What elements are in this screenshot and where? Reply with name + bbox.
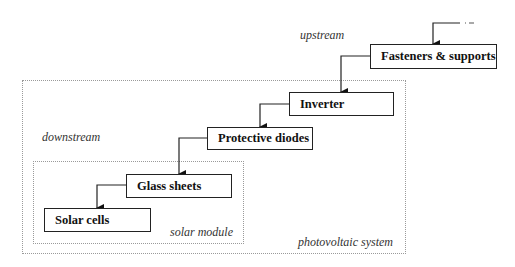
node-protective-diodes: Protective diodes [207, 127, 313, 150]
node-solar-cells: Solar cells [44, 208, 151, 232]
node-label: Glass sheets [137, 179, 201, 194]
node-label: Fasteners & supports [381, 49, 496, 64]
node-glass-sheets: Glass sheets [126, 174, 232, 198]
photovoltaic-system-label: photovoltaic system [298, 235, 393, 250]
node-label: Inverter [300, 97, 344, 112]
node-label: Protective diodes [218, 131, 309, 146]
node-label: Solar cells [55, 213, 109, 228]
downstream-label: downstream [42, 130, 100, 145]
solar-module-label: solar module [170, 225, 233, 240]
node-fasteners-supports: Fasteners & supports [370, 44, 497, 69]
node-inverter: Inverter [289, 92, 394, 116]
upstream-label: upstream [300, 28, 344, 43]
